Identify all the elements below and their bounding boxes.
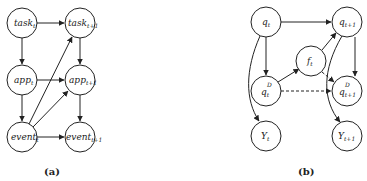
node-label: event [66, 132, 92, 142]
node-label: event [11, 132, 37, 142]
node-superscript: D [266, 81, 272, 88]
node-subscript: t+1 [91, 136, 102, 143]
svg-text:eventt: eventt [11, 132, 39, 143]
node-task-t: taskt [7, 8, 37, 38]
caption-b: (b) [298, 166, 314, 177]
node-event-t: eventt [7, 122, 39, 152]
node-app-t1: appt+1 [65, 65, 97, 95]
node-subscript: t+1 [345, 91, 356, 98]
svg-text:eventt+1: eventt+1 [66, 132, 102, 143]
svg-text:taskt: taskt [14, 18, 36, 29]
node-subscript: t+1 [345, 21, 356, 28]
diagram-b-nodes: qt qt+1 ft qt D qt+1 D Yt Yt+1 [251, 7, 362, 151]
node-subscript: t+1 [86, 79, 97, 86]
node-qD-t: qt D [251, 76, 281, 106]
edge-f-t-to-q-t1 [322, 33, 336, 50]
caption-a: (a) [44, 166, 60, 177]
node-subscript: t+1 [344, 135, 355, 142]
node-f-t: ft [296, 46, 326, 76]
node-task-t1: taskt+1 [65, 8, 98, 38]
node-superscript: D [344, 81, 350, 88]
node-subscript: t+1 [87, 22, 98, 29]
node-app-t: appt [7, 65, 37, 95]
node-Y-t: Yt [251, 121, 281, 151]
node-q-t1: qt+1 [332, 7, 362, 37]
figure-canvas: taskt taskt+1 appt appt+1 eventt eventt+… [0, 0, 367, 181]
node-label: task [14, 18, 33, 28]
edge-qD-t-to-f-t [278, 69, 299, 82]
edge-event-t-to-app-t1 [33, 91, 68, 127]
node-label: app [14, 75, 31, 85]
node-label: app [69, 75, 86, 85]
node-label: task [68, 18, 87, 28]
node-q-t: qt [251, 7, 281, 37]
node-event-t1: eventt+1 [65, 122, 102, 152]
node-Y-t1: Yt+1 [332, 121, 362, 151]
node-qD-t1: qt+1 D [332, 76, 362, 106]
